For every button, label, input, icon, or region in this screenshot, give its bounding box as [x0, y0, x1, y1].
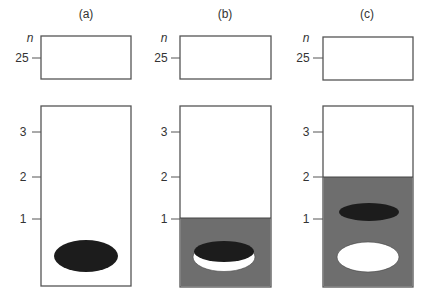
tick-label-25: 25: [15, 51, 29, 65]
panel-c: (c) n 25 3 2 1: [296, 7, 413, 287]
white-particle: [337, 242, 399, 272]
tick-label-1: 1: [20, 212, 27, 226]
tick-label-2: 2: [20, 170, 27, 184]
tick-label-2: 2: [303, 170, 310, 184]
axis-variable-n: n: [303, 31, 310, 45]
three-panel-diagram: (a) n 25 3 2 1 (b) n 25 3 2 1 (c): [0, 0, 429, 300]
panel-a: (a) n 25 3 2 1: [15, 7, 131, 286]
tick-label-3: 3: [161, 125, 168, 139]
tick-label-25: 25: [296, 51, 310, 65]
axis-variable-n: n: [161, 31, 168, 45]
top-box: [323, 37, 413, 80]
tick-label-1: 1: [161, 212, 168, 226]
panel-label: (b): [218, 7, 233, 21]
tick-label-25: 25: [154, 51, 168, 65]
panel-b: (b) n 25 3 2 1: [154, 7, 271, 287]
tick-label-3: 3: [303, 125, 310, 139]
tick-label-3: 3: [20, 125, 27, 139]
tick-label-1: 1: [303, 212, 310, 226]
tick-label-2: 2: [161, 170, 168, 184]
dark-particle: [194, 241, 254, 262]
axis-variable-n: n: [27, 31, 34, 45]
panel-label: (a): [79, 7, 94, 21]
top-box: [41, 36, 131, 79]
dark-particle: [54, 240, 118, 272]
panel-label: (c): [360, 7, 374, 21]
dark-particle: [339, 203, 399, 221]
top-box: [180, 36, 271, 79]
